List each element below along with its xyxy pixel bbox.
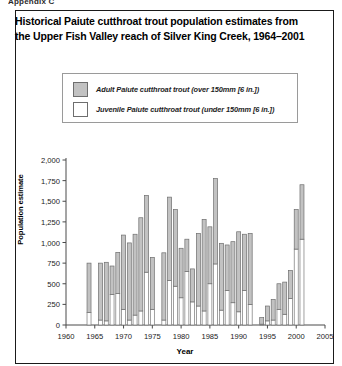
svg-text:1970: 1970 (115, 332, 132, 341)
svg-text:2005: 2005 (317, 332, 334, 341)
bar-chart-svg: 02505007501,0001,2501,5001,7502,00019601… (0, 0, 342, 366)
x-axis-label: Year (60, 347, 310, 356)
svg-text:250: 250 (47, 300, 60, 309)
svg-text:1,000: 1,000 (41, 239, 60, 248)
svg-text:1995: 1995 (259, 332, 276, 341)
y-axis-label: Population estimate (16, 162, 25, 258)
svg-text:1,500: 1,500 (41, 197, 60, 206)
svg-text:0: 0 (56, 321, 60, 330)
svg-text:1985: 1985 (201, 332, 218, 341)
svg-text:750: 750 (47, 259, 60, 268)
svg-text:1960: 1960 (58, 332, 75, 341)
svg-text:1,750: 1,750 (41, 177, 60, 186)
svg-text:500: 500 (47, 280, 60, 289)
svg-text:1980: 1980 (173, 332, 190, 341)
plot-area: 02505007501,0001,2501,5001,7502,00019601… (0, 0, 342, 366)
svg-text:2,000: 2,000 (41, 156, 60, 165)
svg-text:1990: 1990 (230, 332, 247, 341)
figure-page: Appendix C Historical Paiute cutthroat t… (0, 0, 342, 366)
svg-text:1,250: 1,250 (41, 218, 60, 227)
svg-text:1975: 1975 (144, 332, 161, 341)
svg-text:1965: 1965 (86, 332, 103, 341)
svg-text:2000: 2000 (288, 332, 305, 341)
